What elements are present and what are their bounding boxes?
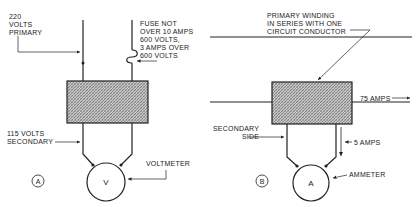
secondary-current-label: 5 AMPS	[354, 139, 381, 147]
voltmeter-label: VOLTMETER	[146, 160, 190, 168]
line-current-label: 75 AMPS	[360, 95, 391, 103]
secondary-side-label: SECONDARY SIDE	[213, 125, 259, 141]
primary-voltage-label: 220 VOLTS PRIMARY	[9, 13, 42, 37]
transformer-diagram: V A A B 220 VOLTS	[0, 0, 418, 207]
fuse-symbol	[127, 50, 138, 63]
secondary-voltage-label: 115 VOLTS SECONDARY	[7, 130, 53, 146]
ammeter-letter: A	[308, 179, 314, 188]
ammeter-label: AMMETER	[349, 171, 385, 179]
svg-text:B: B	[260, 178, 265, 185]
current-transformer-core	[272, 82, 352, 124]
primary-winding-label: PRIMARY WINDING IN SERIES WITH ONE CIRCU…	[267, 12, 346, 36]
fuse-rating-label: FUSE NOT OVER 10 AMPS 600 VOLTS, 3 AMPS …	[140, 20, 193, 60]
transformer-core	[67, 81, 148, 123]
voltmeter-letter: V	[103, 178, 109, 187]
svg-text:A: A	[36, 178, 41, 185]
